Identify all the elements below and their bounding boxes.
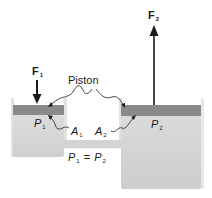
eq-left-base: P bbox=[68, 151, 75, 163]
eq-operator: = bbox=[84, 151, 90, 163]
f1-base: F bbox=[32, 65, 39, 77]
f1-arrow-icon bbox=[33, 80, 42, 104]
right-cylinder bbox=[119, 98, 204, 189]
eq-right-base: P bbox=[94, 151, 101, 163]
p2-sub: 2 bbox=[159, 125, 162, 131]
piston-leader-left bbox=[73, 86, 92, 94]
eq-right-sub: 2 bbox=[102, 158, 105, 164]
a1-label: A1 bbox=[71, 126, 83, 138]
a1-base: A bbox=[71, 125, 78, 137]
pressure-equation: P1=P2 bbox=[68, 152, 106, 164]
f1-sub: 1 bbox=[40, 72, 43, 78]
f2-label: F2 bbox=[148, 10, 159, 22]
a1-sub: 1 bbox=[79, 132, 82, 138]
eq-left-sub: 1 bbox=[76, 158, 79, 164]
hydraulic-press-diagram bbox=[0, 0, 212, 198]
p1-base: P bbox=[34, 117, 41, 129]
piston-label: Piston bbox=[68, 75, 99, 86]
left-piston bbox=[13, 105, 64, 115]
p2-label: P2 bbox=[151, 119, 163, 131]
p1-sub: 1 bbox=[42, 124, 45, 130]
f2-base: F bbox=[148, 9, 155, 21]
f2-sub: 2 bbox=[156, 16, 159, 22]
a2-sub: 2 bbox=[103, 132, 106, 138]
a2-label: A2 bbox=[95, 126, 107, 138]
f1-label: F1 bbox=[32, 66, 43, 78]
p1-label: P1 bbox=[34, 118, 46, 130]
right-piston bbox=[121, 105, 201, 116]
a2-base: A bbox=[95, 125, 102, 137]
f2-arrow-icon bbox=[150, 25, 159, 105]
connecting-tube bbox=[62, 140, 124, 148]
p2-base: P bbox=[151, 118, 158, 130]
